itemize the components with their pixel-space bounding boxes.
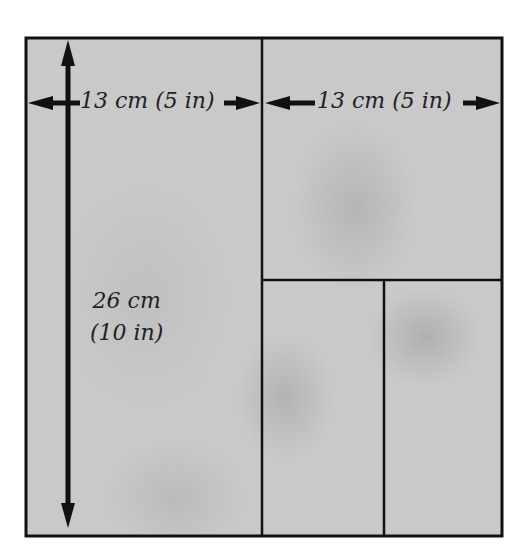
arrowhead-right-icon [236, 96, 260, 110]
height-label: 26 cm (10 in) [90, 285, 163, 349]
right-width-label: 13 cm (5 in) [317, 90, 452, 112]
arrowhead-left-icon [28, 96, 53, 110]
diagram-canvas: 13 cm (5 in) 13 cm (5 in) 26 cm (10 in) [0, 0, 529, 551]
height-label-cm: 26 cm [90, 285, 163, 317]
left-width-label: 13 cm (5 in) [80, 90, 215, 112]
height-label-in: (10 in) [90, 317, 163, 349]
arrowhead-down-icon [61, 503, 75, 528]
arrowhead-right-icon [476, 96, 500, 110]
arrowhead-left-icon [265, 96, 290, 110]
diagram-lines [0, 0, 529, 551]
arrowhead-up-icon [61, 40, 75, 66]
height-arrow [61, 40, 75, 528]
